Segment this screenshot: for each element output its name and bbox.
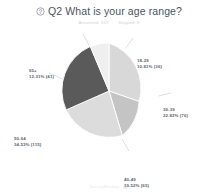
pie-slices (62, 43, 141, 137)
pie-chart-area: 18-29 10.81% (36) 30-39 22.82% (76) 40-4… (0, 27, 218, 167)
data-label-50-64: 50-64 34.53% (115) (14, 136, 41, 148)
leader-line-30-39 (159, 93, 172, 96)
data-label-18-29: 18-29 10.81% (36) (137, 58, 162, 70)
data-label-65-plus-value: 12.31% (41) (29, 74, 54, 80)
footer-text: SurveyMonkey (90, 184, 120, 189)
survey-question-card: Q2 What is your age range? Answered: 333… (0, 0, 218, 192)
pie-chart[interactable] (59, 41, 159, 141)
page-title: Q2 What is your age range? (48, 5, 182, 17)
question-mark-icon (36, 7, 45, 16)
chart-footer: SurveyMonkey (0, 184, 218, 189)
response-summary: Answered: 333 Skipped: 8 (0, 20, 218, 25)
data-label-50-64-value: 34.53% (115) (14, 142, 41, 148)
leader-line-40-49 (122, 139, 129, 151)
leader-line-65-plus (83, 34, 89, 45)
page-title-row: Q2 What is your age range? (0, 5, 218, 17)
chart-header: Q2 What is your age range? Answered: 333… (0, 0, 218, 25)
logo-icon (123, 184, 128, 189)
skipped-count: Skipped: 8 (118, 20, 139, 25)
data-label-30-39: 30-39 22.82% (76) (163, 107, 188, 119)
data-label-30-39-value: 22.82% (76) (163, 113, 188, 119)
leader-line-18-29 (126, 38, 134, 49)
data-label-18-29-value: 10.81% (36) (137, 64, 162, 70)
data-label-65-plus: 65+ 12.31% (41) (29, 68, 54, 80)
answered-count: Answered: 333 (78, 20, 108, 25)
